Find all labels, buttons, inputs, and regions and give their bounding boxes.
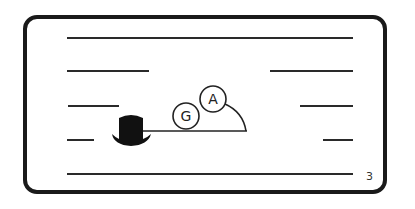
circle-a: A [200, 86, 226, 112]
page-number: 3 [366, 170, 373, 183]
circle-g: G [173, 103, 199, 129]
illustration-graphic: G A [0, 0, 415, 209]
circle-g-label: G [181, 108, 192, 124]
circle-a-label: A [208, 91, 218, 107]
arc-curve [225, 104, 246, 131]
